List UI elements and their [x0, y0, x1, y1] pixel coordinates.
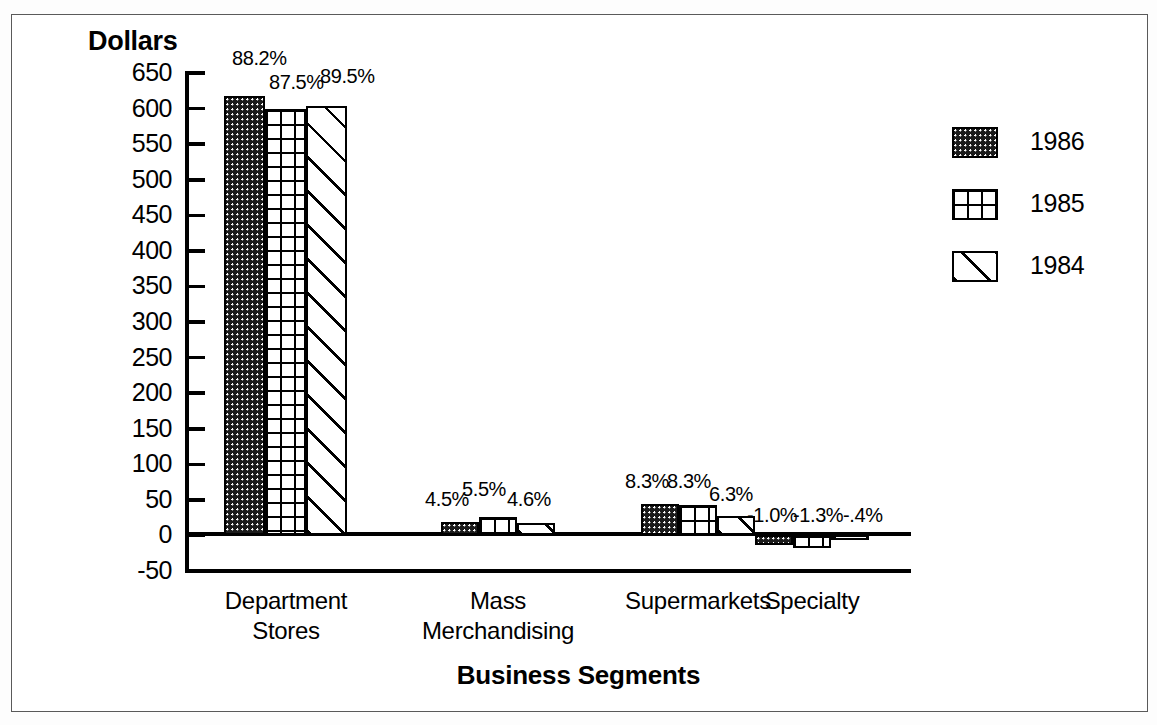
legend-swatch-diagonal-icon	[952, 251, 998, 282]
y-tick-mark	[185, 178, 205, 182]
x-category-label-line: Specialty	[682, 586, 942, 616]
bar-value-label: 87.5%	[269, 72, 324, 92]
y-tick-label: 500	[100, 167, 172, 192]
bar-value-label: -1.3%	[793, 505, 843, 525]
y-tick-mark	[185, 71, 205, 75]
y-tick-label: 100	[100, 451, 172, 476]
bar-1985-mass-merchandising	[479, 517, 517, 535]
y-tick-label: -50	[100, 558, 172, 583]
y-tick-mark	[185, 569, 205, 573]
legend-label: 1985	[1030, 188, 1084, 219]
legend-swatch-dots-icon	[952, 127, 998, 158]
y-tick-label: 150	[100, 416, 172, 441]
y-tick-label: 0	[100, 522, 172, 547]
y-tick-label: 50	[100, 487, 172, 512]
y-tick-label: 600	[100, 96, 172, 121]
bar-value-label: 8.3%	[625, 471, 669, 491]
legend-label: 1984	[1030, 250, 1084, 281]
x-axis-title: Business Segments	[0, 660, 1157, 691]
y-tick-label: 250	[100, 345, 172, 370]
y-tick-mark	[185, 391, 205, 395]
legend-label: 1986	[1030, 126, 1084, 157]
y-tick-label: 450	[100, 202, 172, 227]
bar-1984-department-stores	[306, 106, 347, 535]
y-tick-label: 650	[100, 60, 172, 85]
y-tick-mark	[185, 214, 205, 218]
y-tick-label: 200	[100, 380, 172, 405]
bar-value-label: 89.5%	[320, 66, 375, 86]
chart-figure: Dollars 65060055050045040035030025020015…	[0, 0, 1157, 725]
y-tick-mark	[185, 463, 205, 467]
bar-1986-department-stores	[224, 96, 265, 535]
bar-1986-supermarkets	[641, 504, 679, 535]
bar-value-label: -.4%	[843, 505, 883, 525]
y-tick-mark	[185, 142, 205, 146]
bar-1985-department-stores	[265, 109, 306, 536]
x-axis-line	[185, 569, 911, 573]
y-tick-label: 300	[100, 309, 172, 334]
y-tick-label: 400	[100, 238, 172, 263]
bar-1984-specialty	[831, 535, 869, 540]
bar-value-label: -1.0%	[747, 505, 797, 525]
bar-value-label: 6.3%	[709, 484, 753, 504]
y-tick-label: 350	[100, 273, 172, 298]
y-axis-title: Dollars	[88, 26, 177, 57]
bar-1986-mass-merchandising	[441, 522, 479, 536]
legend-swatch-grid-icon	[952, 189, 998, 220]
y-tick-mark	[185, 356, 205, 360]
y-tick-mark	[185, 107, 205, 111]
bar-value-label: 5.5%	[462, 479, 506, 499]
bar-value-label: 88.2%	[232, 48, 287, 68]
y-tick-mark	[185, 249, 205, 253]
bar-1985-specialty	[793, 535, 831, 548]
y-tick-mark	[185, 427, 205, 431]
y-tick-mark	[185, 498, 205, 502]
x-category-label: Specialty	[682, 586, 942, 616]
bar-1984-mass-merchandising	[517, 523, 555, 536]
bar-1985-supermarkets	[679, 505, 717, 536]
bar-value-label: 4.6%	[507, 489, 551, 509]
y-tick-mark	[185, 320, 205, 324]
bar-1986-specialty	[755, 535, 793, 545]
y-tick-mark	[185, 285, 205, 289]
y-tick-mark	[185, 534, 205, 538]
x-category-label-line: Merchandising	[368, 616, 628, 646]
bar-value-label: 8.3%	[667, 471, 711, 491]
y-tick-label: 550	[100, 131, 172, 156]
